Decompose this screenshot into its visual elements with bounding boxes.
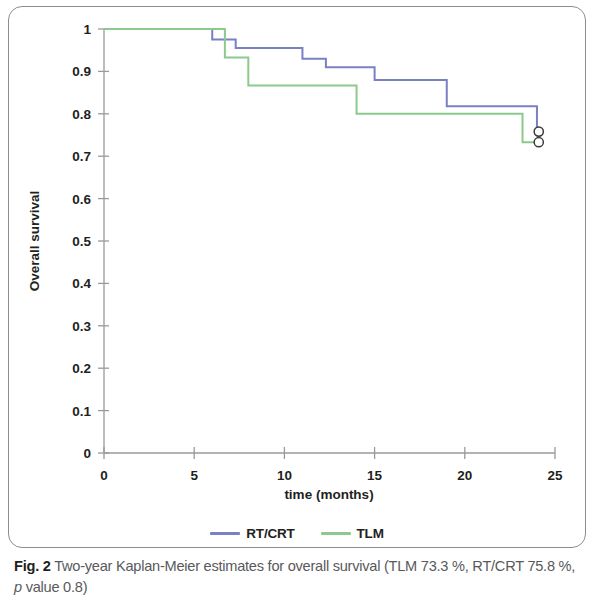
legend-swatch-tlm	[321, 532, 351, 535]
legend-label: TLM	[357, 526, 384, 541]
legend-item-rt-crt: RT/CRT	[210, 526, 294, 541]
x-axis-tick-label: 5	[190, 468, 198, 483]
y-axis-title: Overall survival	[27, 191, 42, 292]
x-axis-tick-label: 15	[367, 468, 383, 483]
y-axis-tick-label: 0.3	[72, 319, 91, 334]
survival-curve-rt-crt	[104, 29, 539, 132]
survival-curve-tlm	[104, 29, 539, 142]
y-axis-tick-label: 0.4	[72, 276, 91, 291]
censor-marks-layer	[534, 127, 543, 147]
y-axis-tick-label: 1	[83, 22, 91, 37]
censor-mark-tlm	[534, 138, 543, 147]
y-axis-tick-label: 0.9	[72, 64, 91, 79]
chart-axes	[104, 29, 555, 453]
x-axis-tick-label: 20	[457, 468, 472, 483]
plot-frame: 00.10.20.30.40.50.60.70.80.91 0510152025…	[8, 6, 586, 548]
y-axis-tick-label: 0.5	[72, 234, 91, 249]
legend-label: RT/CRT	[246, 526, 294, 541]
figure-caption: Fig. 2 Two-year Kaplan-Meier estimates f…	[14, 556, 584, 597]
y-axis-tick-label: 0.7	[72, 149, 91, 164]
chart-legend: RT/CRTTLM	[8, 520, 586, 546]
y-axis-tick-label: 0.8	[72, 107, 91, 122]
x-axis-tick-label: 0	[100, 468, 108, 483]
censor-mark-rt-crt	[534, 127, 543, 136]
figure-caption-pvalue-symbol: p	[14, 579, 22, 595]
y-axis-tick-label: 0.6	[72, 192, 91, 207]
legend-item-tlm: TLM	[321, 526, 384, 541]
y-axis-tick-label: 0.2	[72, 361, 91, 376]
y-axis-tick-label: 0	[83, 446, 91, 461]
x-axis-tick-label: 25	[547, 468, 563, 483]
figure-container: 00.10.20.30.40.50.60.70.80.91 0510152025…	[0, 0, 598, 614]
figure-caption-label: Fig. 2	[14, 558, 51, 574]
x-axis-tick-label: 10	[277, 468, 292, 483]
figure-caption-text: Two-year Kaplan-Meier estimates for over…	[51, 558, 576, 574]
figure-caption-text-end: value 0.8)	[22, 579, 87, 595]
legend-swatch-rt-crt	[210, 532, 240, 535]
y-axis-tick-label: 0.1	[72, 404, 91, 419]
x-axis-title: time (months)	[284, 487, 373, 502]
kaplan-meier-chart: 00.10.20.30.40.50.60.70.80.91 0510152025…	[9, 7, 587, 549]
series-layer	[104, 29, 539, 142]
